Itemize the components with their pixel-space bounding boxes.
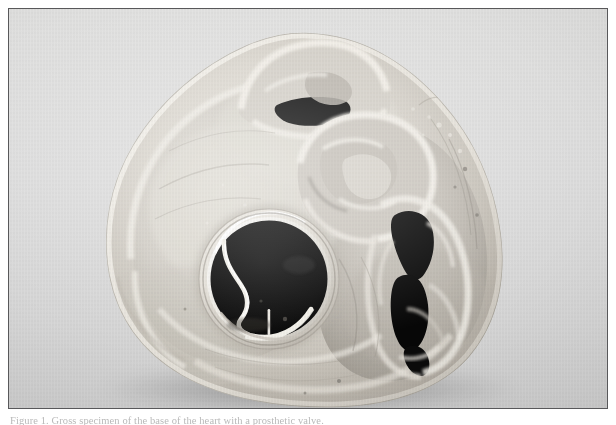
figure-page: Figure 1. Gross specimen of the base of … [0,0,616,425]
prosthetic-valve [195,205,343,353]
orifice-speck [259,299,262,302]
orifice-reflection [283,256,315,274]
figure-caption: Figure 1. Gross specimen of the base of … [10,415,606,425]
orifice-reflection [227,318,271,332]
heart-specimen [94,33,503,407]
photograph-frame [8,8,608,409]
specimen-photograph [9,9,608,409]
orifice-speck [283,317,287,321]
